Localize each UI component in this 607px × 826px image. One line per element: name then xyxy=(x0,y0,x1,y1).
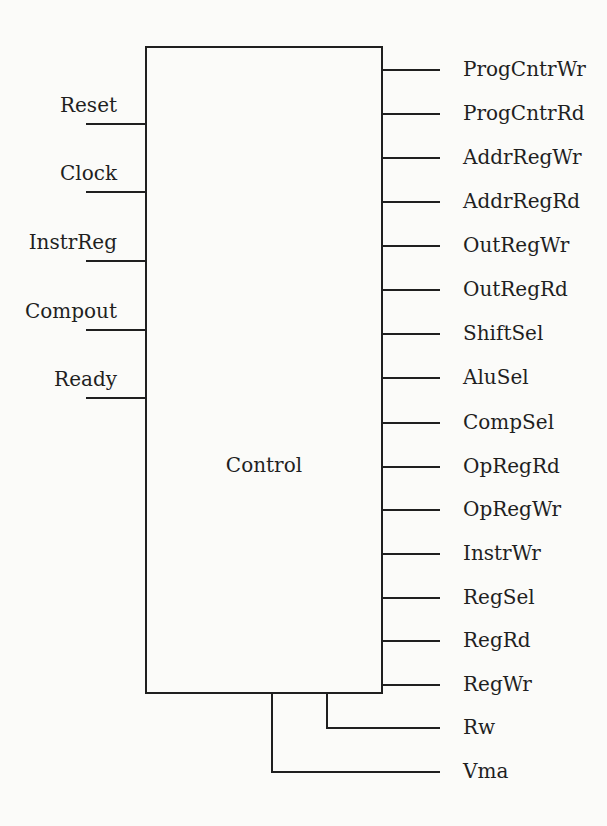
wire-rw-vertical xyxy=(326,693,328,729)
wire-outregrd xyxy=(383,289,440,291)
control-block-label: Control xyxy=(145,453,383,477)
signal-label-opregrd: OpRegRd xyxy=(463,454,560,478)
signal-label-alusel: AluSel xyxy=(463,365,529,389)
wire-clock xyxy=(86,191,145,193)
wire-compout xyxy=(86,329,145,331)
wire-progcntrrd xyxy=(383,113,440,115)
signal-label-compsel: CompSel xyxy=(463,410,554,434)
wire-regwr xyxy=(383,684,440,686)
signal-label-vma: Vma xyxy=(463,759,508,783)
control-unit-diagram: Control ResetClockInstrRegCompoutReady P… xyxy=(0,0,607,826)
wire-opregrd xyxy=(383,466,440,468)
signal-label-progcntrrd: ProgCntrRd xyxy=(463,101,585,125)
signal-label-regrd: RegRd xyxy=(463,628,531,652)
wire-opregwr xyxy=(383,509,440,511)
signal-label-outregwr: OutRegWr xyxy=(463,233,569,257)
signal-label-reset: Reset xyxy=(0,93,117,117)
signal-label-clock: Clock xyxy=(0,161,117,185)
wire-regsel xyxy=(383,597,440,599)
wire-rw-horizontal xyxy=(326,727,440,729)
signal-label-instrwr: InstrWr xyxy=(463,541,541,565)
wire-regrd xyxy=(383,640,440,642)
signal-label-compout: Compout xyxy=(0,299,117,323)
wire-addrregrd xyxy=(383,201,440,203)
wire-shiftsel xyxy=(383,333,440,335)
signal-label-regsel: RegSel xyxy=(463,585,535,609)
wire-vma-vertical xyxy=(271,693,273,773)
wire-compsel xyxy=(383,422,440,424)
signal-label-opregwr: OpRegWr xyxy=(463,497,561,521)
wire-reset xyxy=(86,123,145,125)
control-block xyxy=(145,46,383,694)
wire-outregwr xyxy=(383,245,440,247)
wire-instrwr xyxy=(383,553,440,555)
wire-alusel xyxy=(383,377,440,379)
signal-label-addrregrd: AddrRegRd xyxy=(463,189,580,213)
signal-label-outregrd: OutRegRd xyxy=(463,277,568,301)
wire-progcntrwr xyxy=(383,69,440,71)
wire-ready xyxy=(86,397,145,399)
signal-label-addrregwr: AddrRegWr xyxy=(463,145,582,169)
signal-label-progcntrwr: ProgCntrWr xyxy=(463,57,586,81)
signal-label-instrreg: InstrReg xyxy=(0,230,117,254)
wire-addrregwr xyxy=(383,157,440,159)
signal-label-regwr: RegWr xyxy=(463,672,532,696)
wire-vma-horizontal xyxy=(271,771,440,773)
signal-label-ready: Ready xyxy=(0,367,117,391)
signal-label-rw: Rw xyxy=(463,715,495,739)
wire-instrreg xyxy=(86,260,145,262)
signal-label-shiftsel: ShiftSel xyxy=(463,321,543,345)
